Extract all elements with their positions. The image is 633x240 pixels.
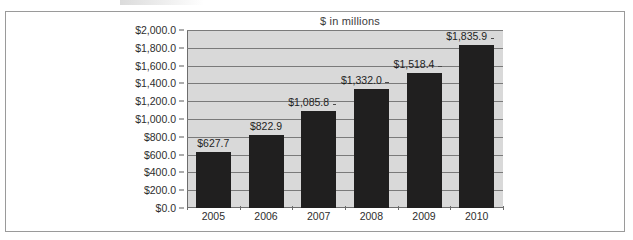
y-axis-tick-label: $1,400.0 <box>135 77 176 89</box>
y-axis-tick-mark <box>179 83 184 84</box>
x-axis-tick-mark <box>503 206 504 210</box>
x-axis-tick-mark <box>187 206 188 210</box>
bar-value-label-2009: $1,518.4 <box>394 58 435 70</box>
y-axis-tick-label: $1,600.0 <box>135 60 176 72</box>
y-axis: $0.0$200.0$400.0$600.0$800.0$1,000.0$1,2… <box>6 30 184 208</box>
x-axis-tick-label-2005: 2005 <box>202 210 225 222</box>
y-axis-tick-label: $2,000.0 <box>135 24 176 36</box>
y-axis-tick-mark <box>179 65 184 66</box>
y-axis-tick-label: $400.0 <box>144 166 176 178</box>
y-axis-tick-mark <box>179 119 184 120</box>
bar-2009[interactable] <box>407 73 442 208</box>
y-axis-tick-mark <box>179 154 184 155</box>
y-axis-tick-mark <box>179 172 184 173</box>
label-leader-line <box>438 66 442 67</box>
chart-frame: $ in millions $0.0$200.0$400.0$600.0$800… <box>5 11 625 232</box>
chart-title: $ in millions <box>192 15 508 27</box>
y-axis-tick-mark <box>179 47 184 48</box>
scan-artifact <box>120 0 240 5</box>
bar-2007[interactable] <box>301 111 336 208</box>
label-leader-line <box>491 38 495 39</box>
x-axis-tick-label-2007: 2007 <box>307 210 330 222</box>
x-axis-tick-label-2006: 2006 <box>254 210 277 222</box>
bar-2010[interactable] <box>459 45 494 208</box>
y-axis-tick-label: $1,200.0 <box>135 95 176 107</box>
y-axis-tick-mark <box>179 30 184 31</box>
x-axis-tick-label-2009: 2009 <box>412 210 435 222</box>
x-axis: 200520062007200820092010 <box>187 210 503 228</box>
bar-series: $627.7$822.9$1,085.8$1,332.0$1,518.4$1,8… <box>187 30 503 208</box>
x-axis-tick-mark <box>345 206 346 210</box>
bar-2005[interactable] <box>196 152 231 208</box>
bar-value-label-2010: $1,835.9 <box>446 30 487 42</box>
y-axis-tick-mark <box>179 136 184 137</box>
label-leader-line <box>333 104 337 105</box>
bar-2006[interactable] <box>249 135 284 208</box>
bar-value-label-2006: $822.9 <box>250 120 282 132</box>
x-axis-tick-mark <box>450 206 451 210</box>
y-axis-tick-mark <box>179 190 184 191</box>
y-axis-tick-label: $600.0 <box>144 149 176 161</box>
x-axis-tick-label-2010: 2010 <box>465 210 488 222</box>
y-axis-tick-label: $0.0 <box>156 202 176 214</box>
y-axis-tick-mark <box>179 101 184 102</box>
bar-value-label-2007: $1,085.8 <box>288 96 329 108</box>
bar-2008[interactable] <box>354 89 389 208</box>
x-axis-tick-label-2008: 2008 <box>360 210 383 222</box>
x-axis-tick-mark <box>240 206 241 210</box>
bar-value-label-2005: $627.7 <box>197 137 229 149</box>
plot-area: $627.7$822.9$1,085.8$1,332.0$1,518.4$1,8… <box>187 30 503 208</box>
y-axis-tick-label: $200.0 <box>144 184 176 196</box>
y-axis-tick-label: $1,800.0 <box>135 42 176 54</box>
bar-value-label-2008: $1,332.0 <box>341 74 382 86</box>
label-leader-line <box>385 82 389 83</box>
chart-area: $ in millions $0.0$200.0$400.0$600.0$800… <box>6 12 624 231</box>
x-axis-tick-mark <box>292 206 293 210</box>
y-axis-tick-label: $800.0 <box>144 131 176 143</box>
y-axis-tick-mark <box>179 208 184 209</box>
x-axis-tick-mark <box>398 206 399 210</box>
y-axis-tick-label: $1,000.0 <box>135 113 176 125</box>
